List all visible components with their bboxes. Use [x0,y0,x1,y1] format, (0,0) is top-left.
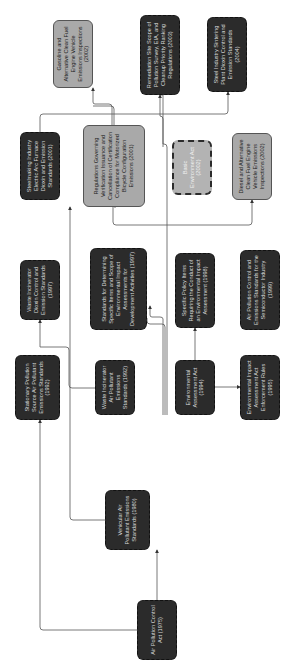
node-label: Steelmaking Industry Electric Arc Furnac… [26,136,54,196]
node-label: Standards for Determining Specific Items… [101,252,136,326]
node-label: Air Pollution Control Act (1975) [150,604,164,656]
node-vehicular-emissions-standards-1980[interactable]: Vehicular Air Pollutant Emissions Standa… [105,490,150,550]
connector-lines [0,0,297,667]
node-environmental-assessment-act-1994[interactable]: Environmental Assessment Act (1994) [175,360,215,415]
node-label: Air Pollution Control and Emissions Stan… [246,254,274,326]
node-waste-incinerator-dioxin-1997[interactable]: Waste Incinerator Dioxin Control and Emi… [20,260,60,320]
node-gasoline-inspections-2002[interactable]: Gasoline and Alternative Clean Fuel Engi… [53,20,93,88]
node-air-pollution-control-act-1975[interactable]: Air Pollution Control Act (1975) [137,600,177,660]
node-waste-incinerator-standards-1992[interactable]: Waste Incinerator Air Pollutant Emission… [95,360,135,415]
node-standards-determining-eia-1997[interactable]: Standards for Determining Specific Items… [90,248,147,330]
node-label: Stationary Pollution Source Air Pollutan… [24,359,52,416]
node-label: Waste Incinerator Air Pollutant Emission… [101,364,129,411]
node-label: Vehicular Air Pollutant Emissions Standa… [117,494,138,546]
node-label: Basic Environment Act (2002) [182,145,203,190]
node-label: Environmental Assessment Act (1994) [185,364,206,411]
node-label: Regulations Governing Verification Issua… [93,129,135,203]
node-label: Environmental Impact Assessment Act Enfo… [246,359,274,416]
node-diesel-inspections-2002[interactable]: Diesel and Alternative Clean Fuel Engine… [232,133,272,200]
node-label: Diesel and Alternative Clean Fuel Engine… [238,137,266,196]
node-specific-policy-items-1998[interactable]: Specific Policy Items Requiring the Cond… [175,253,215,328]
node-semiconductor-standards-1999[interactable]: Air Pollution Control and Emissions Stan… [240,250,280,330]
rotated-diagram-canvas: Air Pollution Control Act (1975) Vehicul… [0,0,297,667]
node-remediation-site-scope-2003[interactable]: Remediation Site Scope of Pollution Surv… [140,15,180,95]
node-label: Specific Policy Items Requiring the Cond… [181,257,209,324]
node-eia-enforcement-rules-1995[interactable]: Environmental Impact Assessment Act Enfo… [240,355,280,420]
node-label: Remediation Site Scope of Pollution Surv… [146,19,174,91]
node-motorized-bicycle-regulations-2001[interactable]: Regulations Governing Verification Issua… [83,125,145,207]
node-steel-sintering-2004[interactable]: Steel Industry Sintering Plant Dioxin Co… [207,17,247,92]
node-label: Gasoline and Alternative Clean Fuel Engi… [56,24,91,84]
node-basic-environment-act-2002[interactable]: Basic Environment Act (2002) [172,140,212,195]
node-label: Steel Industry Sintering Plant Dioxin Co… [213,21,241,88]
node-stationary-source-standards-1992[interactable]: Stationary Pollution Source Air Pollutan… [15,355,60,420]
node-label: Waste Incinerator Dioxin Control and Emi… [26,264,54,316]
node-steelmaking-arc-furnace-2001[interactable]: Steelmaking Industry Electric Arc Furnac… [20,132,60,200]
